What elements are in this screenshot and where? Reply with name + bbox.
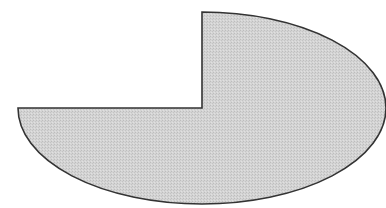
diagram-canvas (0, 0, 386, 208)
ellipse-three-quarter-shape (18, 12, 386, 204)
